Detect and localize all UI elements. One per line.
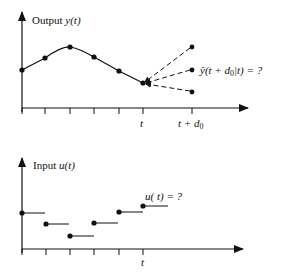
prediction-diagram: Output y(t) ŷ(t + d0|t) = ? t t + d0 bbox=[0, 0, 283, 278]
input-samples bbox=[19, 203, 145, 238]
input-ticks bbox=[22, 249, 143, 255]
prediction-dashes bbox=[145, 48, 190, 91]
future-points bbox=[190, 45, 195, 95]
input-x-label-t: t bbox=[141, 256, 145, 268]
output-title: Output y(t) bbox=[32, 14, 81, 27]
input-panel: Input u(t) u( t) = ? t bbox=[19, 158, 243, 268]
output-ticks bbox=[22, 108, 192, 114]
x-label-t-plus-d0: t + d0 bbox=[178, 117, 203, 131]
output-curve bbox=[22, 47, 143, 83]
prediction-label: ŷ(t + d0|t) = ? bbox=[199, 64, 263, 78]
output-panel: Output y(t) ŷ(t + d0|t) = ? t t + d0 bbox=[19, 12, 262, 131]
input-question-label: u( t) = ? bbox=[145, 190, 183, 203]
input-title: Input u(t) bbox=[33, 159, 75, 172]
x-label-t: t bbox=[140, 117, 144, 129]
